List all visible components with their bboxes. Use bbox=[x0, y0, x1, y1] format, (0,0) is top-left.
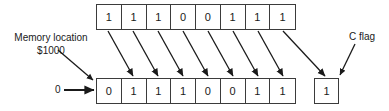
top-bit-cell: 1 bbox=[270, 5, 295, 29]
bottom-bit-cell: 1 bbox=[270, 79, 295, 103]
bottom-bit-cell: 0 bbox=[221, 79, 246, 103]
c-flag-label: C flag bbox=[349, 31, 375, 44]
shift-arrow-bit3 bbox=[183, 31, 208, 76]
shift-arrow-bit2 bbox=[158, 31, 183, 76]
shift-arrow-group bbox=[108, 31, 325, 76]
bottom-bit-cell: 1 bbox=[147, 79, 172, 103]
top-bit-cell: 0 bbox=[196, 5, 221, 29]
top-bit-cell: 1 bbox=[221, 5, 246, 29]
bottom-register: 0 1 1 1 0 0 1 1 bbox=[96, 78, 296, 104]
c-flag-box: 1 bbox=[314, 78, 339, 104]
top-bit-cell: 1 bbox=[246, 5, 271, 29]
top-bit-cell: 0 bbox=[171, 5, 196, 29]
shift-arrow-bit1 bbox=[133, 31, 158, 76]
shift-arrow-bit4 bbox=[208, 31, 233, 76]
shift-in-zero-label: 0 bbox=[55, 84, 61, 97]
memory-location-label: Memory location $1000 bbox=[7, 32, 95, 57]
memory-location-label-line2: $1000 bbox=[7, 45, 95, 58]
shift-arrow-bit7-to-carry bbox=[283, 31, 325, 76]
shift-operation-diagram: 1 1 1 0 0 1 1 1 0 1 1 1 0 0 1 1 1 Memory… bbox=[0, 0, 389, 111]
bottom-bit-cell: 1 bbox=[246, 79, 271, 103]
bottom-bit-cell: 0 bbox=[97, 79, 122, 103]
shift-arrow-bit5 bbox=[233, 31, 258, 76]
bottom-bit-cell: 1 bbox=[171, 79, 196, 103]
memory-location-label-line1: Memory location bbox=[7, 32, 95, 45]
top-bit-cell: 1 bbox=[122, 5, 147, 29]
shift-arrow-bit0 bbox=[108, 31, 133, 76]
bottom-bit-cell: 1 bbox=[122, 79, 147, 103]
top-register: 1 1 1 0 0 1 1 1 bbox=[96, 4, 296, 30]
c-flag-leader bbox=[340, 44, 355, 75]
shift-arrow-bit6 bbox=[258, 31, 283, 76]
top-bit-cell: 1 bbox=[97, 5, 122, 29]
bottom-bit-cell: 0 bbox=[196, 79, 221, 103]
top-bit-cell: 1 bbox=[147, 5, 172, 29]
